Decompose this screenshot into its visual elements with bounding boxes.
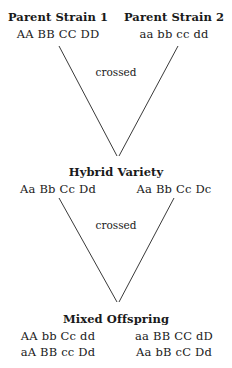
- offspring-row-2-left: aA BB cc Dd: [0, 345, 116, 359]
- hybrid-variety-genotype-right: Aa Bb Cc Dc: [116, 182, 232, 196]
- hybrid-variety-genotype-left: Aa Bb Cc Dd: [0, 182, 116, 196]
- cross-2-right-line: [119, 198, 174, 302]
- offspring-row-2-right: Aa bB cC Dd: [116, 345, 232, 359]
- cross-2-left-line: [59, 198, 117, 302]
- hybrid-variety-title: Hybrid Variety: [0, 165, 232, 179]
- offspring-row-1-left: AA bb Cc dd: [0, 329, 116, 343]
- cross-1-right-line: [119, 46, 178, 156]
- cross-2-label: crossed: [0, 219, 232, 231]
- parent-strain-2-genotype: aa bb cc dd: [116, 27, 232, 41]
- parent-strain-2-title: Parent Strain 2: [116, 10, 232, 24]
- mixed-offspring-title: Mixed Offspring: [0, 312, 232, 326]
- cross-1-label: crossed: [0, 66, 232, 78]
- cross-1-left-line: [59, 46, 117, 156]
- parent-strain-1-title: Parent Strain 1: [0, 10, 116, 24]
- genetic-cross-diagram: Parent Strain 1 AA BB CC DD Parent Strai…: [0, 0, 232, 368]
- offspring-row-1-right: aa BB CC dD: [116, 329, 232, 343]
- parent-strain-1-genotype: AA BB CC DD: [0, 27, 116, 41]
